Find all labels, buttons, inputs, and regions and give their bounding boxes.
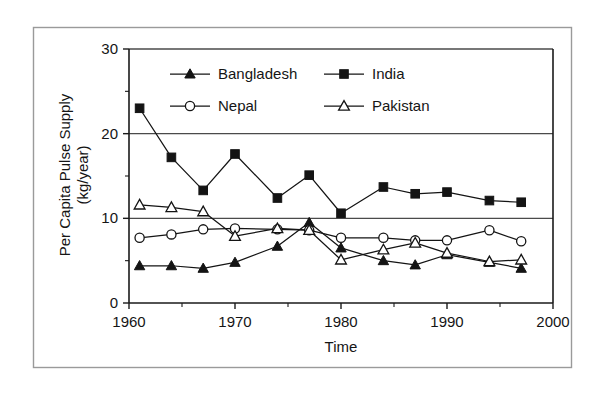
datapoint-pakistan-1961 <box>134 199 145 209</box>
datapoint-bangladesh-1974 <box>272 241 282 250</box>
pulse-supply-line-chart: 0102030 19601970198019902000 BangladeshI… <box>0 0 608 395</box>
datapoint-nepal-1964 <box>167 230 176 239</box>
datapoint-nepal-1997 <box>517 237 526 246</box>
legend-item-bangladesh[interactable]: Bangladesh <box>170 65 297 82</box>
y-tick-label-0: 0 <box>110 294 118 311</box>
datapoint-pakistan-1997 <box>516 254 527 264</box>
x-tick-labels: 19601970198019902000 <box>112 313 569 330</box>
datapoint-nepal-1961 <box>135 233 144 242</box>
datapoint-bangladesh-1980 <box>336 243 346 252</box>
figure-root: 0102030 19601970198019902000 BangladeshI… <box>0 0 608 395</box>
y-tick-labels: 0102030 <box>101 40 118 311</box>
series-line-pakistan <box>140 205 522 262</box>
series-bangladesh <box>140 223 522 269</box>
datapoint-nepal-1967 <box>199 225 208 234</box>
x-axis-title: Time <box>325 338 358 355</box>
y-tick-label-10: 10 <box>101 209 118 226</box>
y-tick-label-20: 20 <box>101 125 118 142</box>
series-pakistan <box>140 205 522 262</box>
datapoint-india-1987 <box>411 189 420 198</box>
y-axis-title-line2: (kg/year) <box>74 145 91 204</box>
legend-item-india[interactable]: India <box>324 65 405 82</box>
legend-item-pakistan[interactable]: Pakistan <box>324 97 430 114</box>
datapoint-india-1990 <box>443 188 452 197</box>
x-tick-label-1970: 1970 <box>218 313 251 330</box>
legend-label-india: India <box>372 65 405 82</box>
datapoint-india-1997 <box>517 198 526 207</box>
datapoint-india-1980 <box>337 209 346 218</box>
series-markers-pakistan <box>134 199 526 265</box>
legend-label-nepal: Nepal <box>218 97 257 114</box>
datapoint-india-1984 <box>379 183 388 192</box>
datapoint-nepal-1990 <box>442 236 451 245</box>
filled-square-icon <box>340 70 349 79</box>
datapoint-india-1961 <box>135 104 144 113</box>
x-tick-label-1990: 1990 <box>430 313 463 330</box>
datapoint-india-1977 <box>305 171 314 180</box>
datapoint-bangladesh-1970 <box>230 257 240 266</box>
x-tick-label-2000: 2000 <box>536 313 569 330</box>
datapoint-india-1967 <box>199 186 208 195</box>
data-series-layer <box>134 104 526 272</box>
open-circle-icon <box>185 101 194 110</box>
legend-label-pakistan: Pakistan <box>372 97 430 114</box>
x-tick-label-1980: 1980 <box>324 313 357 330</box>
datapoint-nepal-1994 <box>485 226 494 235</box>
y-axis-title-line1: Per Capita Pulse Supply <box>56 93 73 256</box>
series-markers-bangladesh <box>134 217 526 272</box>
y-tick-label-30: 30 <box>101 40 118 57</box>
legend-item-nepal[interactable]: Nepal <box>170 97 257 114</box>
datapoint-india-1964 <box>167 153 176 162</box>
series-line-bangladesh <box>140 223 522 269</box>
datapoint-nepal-1980 <box>336 233 345 242</box>
legend-label-bangladesh: Bangladesh <box>218 65 297 82</box>
chart-legend: BangladeshIndiaNepalPakistan <box>170 65 430 114</box>
x-tick-label-1960: 1960 <box>112 313 145 330</box>
datapoint-india-1970 <box>231 150 240 159</box>
datapoint-india-1974 <box>273 194 282 203</box>
tick-marks <box>123 49 553 309</box>
datapoint-nepal-1984 <box>379 233 388 242</box>
series-line-india <box>140 108 522 213</box>
datapoint-india-1994 <box>485 196 494 205</box>
series-india <box>140 108 522 213</box>
